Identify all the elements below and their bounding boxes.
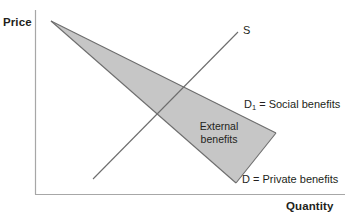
social-demand-description: = Social benefits (256, 98, 340, 110)
social-demand-subscript: 1 (252, 103, 256, 112)
x-axis-title: Quantity (286, 200, 333, 212)
external-benefits-region (51, 21, 276, 183)
social-benefits-curve-label: D1 = Social benefits (244, 99, 340, 111)
external-benefits-line-1: External (200, 120, 239, 132)
y-axis-title: Price (3, 16, 32, 28)
external-benefits-line-2: benefits (201, 133, 238, 145)
external-benefits-label: Externalbenefits (188, 120, 250, 146)
externality-diagram: Price Quantity S D1 = Social benefits D … (0, 0, 345, 219)
private-benefits-curve-label: D = Private benefits (242, 174, 338, 186)
supply-curve-label: S (243, 25, 250, 37)
social-demand-symbol: D (244, 98, 252, 110)
